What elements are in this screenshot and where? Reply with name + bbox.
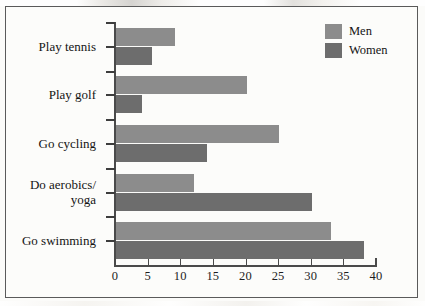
y-axis-tick: [106, 46, 115, 48]
y-axis-tick: [106, 94, 115, 96]
x-axis-tick: [343, 258, 344, 266]
bar-men: [116, 28, 175, 46]
category-label: Do aerobics/ yoga: [30, 177, 96, 207]
bar-women: [116, 193, 312, 211]
x-axis-tick: [148, 258, 149, 266]
x-axis-tick-label: 35: [328, 269, 358, 284]
legend-label-women: Women: [349, 43, 388, 58]
category-label: Go swimming: [22, 233, 96, 248]
x-axis-tick-label: 5: [133, 269, 163, 284]
legend-swatch-men-icon: [325, 24, 342, 39]
category-label: Go cycling: [39, 136, 96, 151]
bar-women: [116, 95, 142, 113]
y-axis-tick: [106, 216, 115, 218]
category-label: Play golf: [49, 87, 96, 102]
chart-legend: Men Women: [325, 22, 388, 60]
bar-men: [116, 174, 194, 192]
x-axis-tick-label: 25: [263, 269, 293, 284]
y-axis-tick: [106, 22, 115, 24]
bar-men: [116, 222, 331, 240]
y-axis-tick: [106, 119, 115, 121]
chart-screenshot: 0510152025303540Play tennisPlay golfGo c…: [0, 0, 425, 306]
bar-women: [116, 47, 152, 65]
x-axis-tick-label: 40: [361, 269, 391, 284]
x-axis-tick-label: 10: [165, 269, 195, 284]
y-axis-tick: [106, 143, 115, 145]
x-axis-tick-label: 30: [296, 269, 326, 284]
bar-women: [116, 144, 207, 162]
legend-swatch-women-icon: [325, 43, 342, 58]
x-axis-tick-label: 15: [198, 269, 228, 284]
bar-women: [116, 241, 364, 259]
x-axis-tick-label: 20: [231, 269, 261, 284]
x-axis-tick-label: 0: [100, 269, 130, 284]
y-axis-tick: [106, 240, 115, 242]
legend-label-men: Men: [349, 24, 372, 39]
y-axis-tick: [106, 71, 115, 73]
legend-entry-men: Men: [325, 22, 388, 41]
x-axis-tick: [278, 258, 279, 266]
legend-entry-women: Women: [325, 41, 388, 60]
bar-men: [116, 76, 247, 94]
y-axis-tick: [106, 168, 115, 170]
x-axis-tick: [180, 258, 181, 266]
category-label: Play tennis: [39, 39, 96, 54]
x-axis-tick: [213, 258, 214, 266]
x-axis-tick: [376, 258, 377, 266]
x-axis-tick: [115, 258, 116, 266]
bar-men: [116, 125, 279, 143]
x-axis-tick: [311, 258, 312, 266]
y-axis-tick: [106, 192, 115, 194]
x-axis-tick: [246, 258, 247, 266]
